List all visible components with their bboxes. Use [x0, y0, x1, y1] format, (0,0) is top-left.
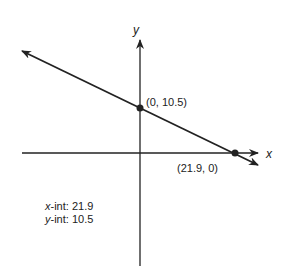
x-int-line: x-int: 21.9 [45, 200, 93, 213]
y-intercept-point [137, 105, 144, 112]
graph-line [22, 51, 140, 108]
y-intercept-label: (0, 10.5) [146, 96, 187, 108]
x-intercept-point [232, 150, 239, 157]
graph-line-ext [140, 108, 258, 165]
x-int-value: -int: 21.9 [51, 200, 94, 212]
y-int-value: -int: 10.5 [51, 213, 94, 225]
x-axis-label: x [266, 148, 272, 160]
y-axis-label: y [133, 24, 139, 36]
x-intercept-label: (21.9, 0) [177, 162, 218, 174]
y-int-line: y-int: 10.5 [45, 213, 93, 226]
intercepts-info: x-int: 21.9 y-int: 10.5 [45, 200, 93, 226]
chart-canvas [0, 0, 289, 268]
